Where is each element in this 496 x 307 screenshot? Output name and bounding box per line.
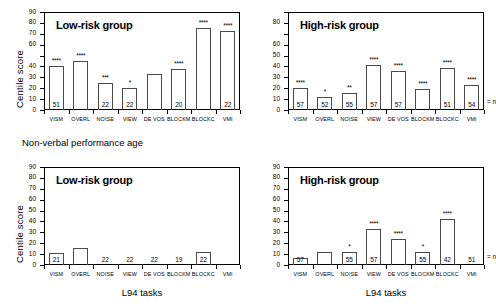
plot-area	[288, 167, 484, 265]
y-axis-tick-label: 50	[22, 207, 36, 214]
y-axis-tick	[40, 88, 45, 89]
sample-size-label: 22	[151, 256, 158, 263]
y-axis-tick	[40, 211, 45, 212]
x-axis-tick-label: OVERL	[313, 271, 338, 277]
x-axis-tick-label: BLOCKM	[411, 271, 436, 277]
x-axis-tick-label: VMI	[460, 116, 485, 122]
y-axis-tick	[284, 77, 289, 78]
sample-size-label: 22	[200, 256, 207, 263]
sample-size-label: 22	[224, 101, 231, 108]
x-axis-tick-label: NOISE	[337, 271, 362, 277]
x-axis-tick	[69, 265, 70, 269]
significance-marker: ****	[369, 57, 378, 63]
y-axis-tick-label: 30	[266, 74, 280, 81]
x-axis-tick	[313, 265, 314, 269]
x-axis-title: L94 tasks	[288, 287, 484, 298]
x-axis-tick-label: OVERL	[69, 116, 94, 122]
x-axis-tick	[216, 265, 217, 269]
y-axis-tick	[284, 232, 289, 233]
sample-size-label: 22	[102, 256, 109, 263]
n-legend: = n	[487, 98, 496, 105]
x-axis-tick-label: BLOCKM	[167, 271, 192, 277]
x-axis-tick	[191, 110, 192, 114]
y-axis-tick-label: 80	[266, 19, 280, 26]
x-axis-tick-label: VISM	[44, 116, 69, 122]
y-axis-tick	[40, 167, 45, 168]
significance-marker: *	[129, 80, 131, 86]
x-axis-tick	[240, 265, 241, 269]
y-axis-tick-label: 30	[22, 229, 36, 236]
y-axis-tick	[40, 265, 45, 266]
significance-marker: ****	[296, 80, 305, 86]
x-axis-tick-label: DE VOS	[142, 271, 167, 277]
sample-size-label: 57	[297, 256, 304, 263]
significance-marker: ****	[443, 60, 452, 66]
sample-size-label: 55	[419, 256, 426, 263]
sample-size-label: 57	[370, 256, 377, 263]
bar	[317, 252, 332, 265]
bar	[196, 28, 211, 110]
sample-size-label: 51	[468, 256, 475, 263]
x-axis-tick	[337, 110, 338, 114]
bar	[440, 219, 455, 265]
y-axis-tick-label: 20	[22, 85, 36, 92]
y-axis-tick-label: 10	[266, 251, 280, 258]
x-axis-tick-label: VIEW	[118, 271, 143, 277]
y-axis-tick-label: 80	[22, 19, 36, 26]
x-axis-tick	[386, 110, 387, 114]
significance-marker: ****	[76, 53, 85, 59]
x-axis-tick	[44, 265, 45, 269]
x-axis-tick	[313, 110, 314, 114]
y-axis-tick	[284, 178, 289, 179]
x-axis-tick	[484, 110, 485, 114]
y-axis-tick-label: 40	[266, 218, 280, 225]
y-axis-tick	[40, 243, 45, 244]
y-axis-tick	[284, 88, 289, 89]
bar	[171, 69, 186, 110]
x-axis-tick-label: BLOCKC	[435, 271, 460, 277]
y-axis-tick	[40, 232, 45, 233]
x-axis-tick	[118, 110, 119, 114]
significance-marker: ****	[174, 61, 183, 67]
x-axis-tick-label: BLOCKC	[191, 271, 216, 277]
significance-marker: ****	[52, 58, 61, 64]
x-axis-tick-label: OVERL	[69, 271, 94, 277]
x-axis-tick-label: VISM	[288, 116, 313, 122]
x-axis-tick	[240, 110, 241, 114]
x-axis-tick	[435, 265, 436, 269]
bar	[342, 252, 357, 265]
section-label: Non-verbal performance age	[22, 137, 143, 148]
y-axis-tick-label: 60	[266, 41, 280, 48]
bar	[293, 258, 308, 265]
x-axis-tick-label: OVERL	[313, 116, 338, 122]
significance-marker: ****	[394, 231, 403, 237]
x-axis-tick	[484, 265, 485, 269]
x-axis-tick	[362, 110, 363, 114]
bar	[391, 239, 406, 265]
x-axis-tick-label: DE VOS	[386, 116, 411, 122]
y-axis-tick-label: 70	[266, 185, 280, 192]
y-axis-tick-label: 60	[22, 196, 36, 203]
x-axis-tick	[411, 265, 412, 269]
significance-marker: *	[324, 89, 326, 95]
y-axis-tick-label: 30	[22, 74, 36, 81]
y-axis-tick	[40, 56, 45, 57]
y-axis-tick	[40, 254, 45, 255]
bar	[73, 248, 88, 265]
x-axis-tick-label: DE VOS	[386, 271, 411, 277]
x-axis-tick-label: VMI	[216, 116, 241, 122]
x-axis-tick-label: VIEW	[118, 116, 143, 122]
x-axis-tick-label: NOISE	[93, 271, 118, 277]
y-axis-tick-label: 0	[22, 262, 36, 269]
y-axis-tick-label: 40	[22, 218, 36, 225]
x-axis-tick-label: VMI	[460, 271, 485, 277]
sample-size-label: 57	[395, 101, 402, 108]
x-axis-tick	[411, 110, 412, 114]
x-axis-tick	[167, 110, 168, 114]
x-axis-tick	[435, 110, 436, 114]
y-axis-tick-label: 0	[266, 262, 280, 269]
y-axis-tick	[284, 265, 289, 266]
y-axis-tick-label: 10	[22, 96, 36, 103]
y-axis-tick	[284, 254, 289, 255]
n-legend: = n	[487, 253, 496, 260]
